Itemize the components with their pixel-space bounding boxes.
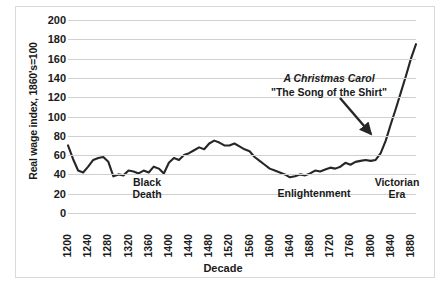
annotation-black-death-line2: Death xyxy=(112,189,182,201)
annotation-black-death-line1: Black xyxy=(112,177,182,189)
x-axis-tick-label: 1760 xyxy=(344,234,355,257)
gridline xyxy=(68,20,416,21)
y-axis-tick-label: 20 xyxy=(36,188,66,199)
y-axis-tick-label: 160 xyxy=(36,53,66,64)
x-axis-tick-label: 1840 xyxy=(384,234,395,257)
annotation-enlightenment: Enlightenment xyxy=(268,188,360,200)
annotation-victorian-era-line2: Era xyxy=(362,189,432,201)
gridline xyxy=(68,59,416,60)
x-axis-tick-label: 1320 xyxy=(122,234,133,257)
x-axis-tick-label: 1480 xyxy=(203,234,214,257)
gridline xyxy=(68,174,416,175)
gridline xyxy=(68,155,416,156)
x-axis-tick-label: 1200 xyxy=(62,234,73,257)
x-axis-tick-label: 1720 xyxy=(324,234,335,257)
annotation-victorian-era: Victorian Era xyxy=(362,177,432,201)
annotation-callout-line1: A Christmas Carol xyxy=(236,72,422,86)
annotation-black-death: Black Death xyxy=(112,177,182,201)
y-axis-tick-label: 120 xyxy=(36,92,66,103)
y-axis-tick-label: 180 xyxy=(36,34,66,45)
y-axis-tick-label: 40 xyxy=(36,169,66,180)
x-axis-tick-label: 1520 xyxy=(223,234,234,257)
y-axis-tick-label: 0 xyxy=(36,208,66,219)
x-axis-tick-label: 1360 xyxy=(142,234,153,257)
y-axis-tick-label: 200 xyxy=(36,15,66,26)
callout-arrow-icon xyxy=(338,96,384,146)
x-axis-tick-label: 1600 xyxy=(263,234,274,257)
y-axis-tick-label: 100 xyxy=(36,111,66,122)
gridline xyxy=(68,39,416,40)
x-axis-tick-label: 1440 xyxy=(183,234,194,257)
x-axis-tick-label: 1280 xyxy=(102,234,113,257)
annotation-callout: A Christmas Carol "The Song of the Shirt… xyxy=(236,72,422,99)
y-axis-tick-label: 140 xyxy=(36,72,66,83)
chart-figure: Real wage index, 1860's=100 200180160140… xyxy=(0,0,446,290)
y-axis-tick-label: 60 xyxy=(36,150,66,161)
x-axis-title: Decade xyxy=(0,262,446,274)
gridline xyxy=(68,213,416,214)
x-axis-tick-label: 1880 xyxy=(404,234,415,257)
x-axis-tick-label: 1240 xyxy=(82,234,93,257)
annotation-callout-line2: "The Song of the Shirt" xyxy=(236,86,422,100)
x-axis-tick-label: 1680 xyxy=(304,234,315,257)
x-axis-tick-label: 1640 xyxy=(283,234,294,257)
annotation-enlightenment-line1: Enlightenment xyxy=(268,188,360,200)
x-axis-tick-label: 1560 xyxy=(243,234,254,257)
y-axis-tick-label: 80 xyxy=(36,130,66,141)
x-axis-tick-label: 1400 xyxy=(162,234,173,257)
annotation-victorian-era-line1: Victorian xyxy=(362,177,432,189)
x-axis-tick-labels: 1200124012801320136014001440148015201560… xyxy=(68,215,416,257)
x-axis-tick-label: 1800 xyxy=(364,234,375,257)
